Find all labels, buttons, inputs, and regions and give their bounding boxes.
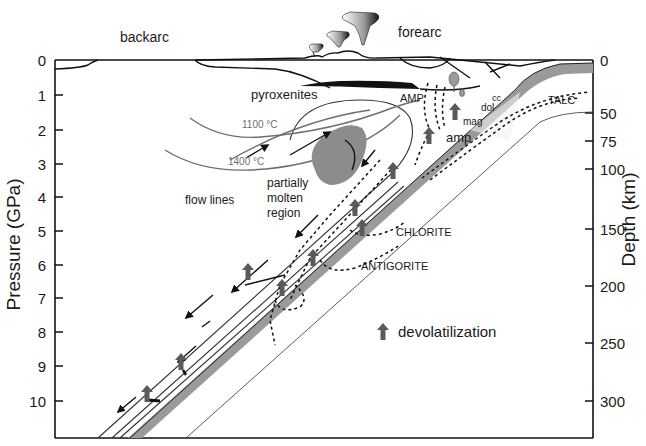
partially-molten-label: partially molten region (267, 176, 308, 221)
mag-label: mag (463, 117, 482, 127)
tick-label: 0 (20, 52, 46, 69)
dol-label: dol (481, 103, 494, 113)
tick-label: 75 (600, 133, 617, 150)
crust-surface (55, 51, 555, 88)
flow-lines-label: flow lines (185, 194, 234, 206)
lithosphere-base (420, 86, 480, 90)
tick-label: 10 (20, 393, 46, 410)
tick-label: 0 (600, 52, 608, 69)
phase-boundaries (270, 83, 590, 345)
up-arrow-icon (349, 199, 361, 216)
up-arrow-icon (242, 263, 254, 280)
legend-up-arrow-icon (377, 323, 389, 340)
partially-molten-region (312, 125, 367, 185)
subduction-diagram (0, 0, 646, 446)
pyroxenites-label: pyroxenites (251, 88, 317, 101)
amp-lower-label: amp (446, 131, 471, 144)
tick-label: 8 (20, 324, 46, 341)
chlorite-label: CHLORITE (396, 227, 452, 238)
tick-label: 9 (20, 358, 46, 375)
amp-upper-label: AMP (400, 93, 424, 104)
tick-label: 2 (20, 122, 46, 139)
talc-label: TALC (548, 95, 575, 106)
legend-devolatilization-label: devolatilization (398, 324, 496, 339)
tick-label: 200 (600, 278, 625, 295)
backarc-label: backarc (120, 30, 169, 44)
isotherm-1100-label: 1100 °C (242, 120, 278, 130)
devolatilization-arrows (141, 103, 461, 402)
tick-label: 1 (20, 87, 46, 104)
tick-label: 3 (20, 156, 46, 173)
tick-label: 50 (600, 105, 617, 122)
isotherms (165, 100, 420, 170)
forearc-diapirs (449, 72, 465, 97)
tick-label: 300 (600, 393, 625, 410)
right-axis-title: Depth (km) (619, 173, 638, 267)
left-axis-ticks (55, 95, 63, 401)
volcanic-plumes (309, 12, 379, 57)
tick-label: 250 (600, 335, 625, 352)
isotherm-1400-label: 1400 °C (228, 157, 264, 167)
right-axis-ticks (585, 113, 593, 401)
left-axis-title: Pressure (GPa) (4, 179, 23, 311)
forearc-label: forearc (398, 25, 442, 39)
up-arrow-icon (449, 103, 461, 120)
antigorite-label: ANTIGORITE (361, 261, 428, 272)
